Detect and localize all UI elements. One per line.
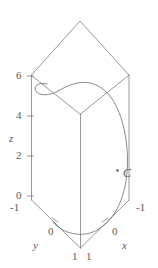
x-tick-label-0: 0 — [112, 226, 118, 237]
space-curve-c — [35, 82, 127, 234]
box-top-face — [32, 21, 130, 114]
figure-canvas — [0, 0, 158, 268]
y-tick-label-1: 1 — [72, 251, 78, 262]
y-axis-label: y — [33, 240, 38, 251]
x-axis-label: x — [122, 240, 127, 251]
curve-label-c: C — [123, 167, 131, 179]
curve-point-marker — [116, 169, 118, 171]
z-tick-label-0: 0 — [16, 190, 22, 201]
z-tick-label-4: 4 — [16, 110, 22, 121]
figure-3d-space-curve: 6 4 2 0 z -1 0 1 y 1 0 -1 x C — [0, 0, 158, 268]
z-tick-label-6: 6 — [16, 70, 22, 81]
x-tick-label-minus1: -1 — [136, 202, 145, 213]
y-tick-label-minus1: -1 — [10, 202, 19, 213]
box-edge-bottom-left — [32, 200, 81, 248]
y-tick-label-0: 0 — [48, 226, 54, 237]
z-tick-label-2: 2 — [16, 150, 22, 161]
x-tick-label-1: 1 — [86, 251, 92, 262]
z-axis-label: z — [9, 133, 13, 144]
